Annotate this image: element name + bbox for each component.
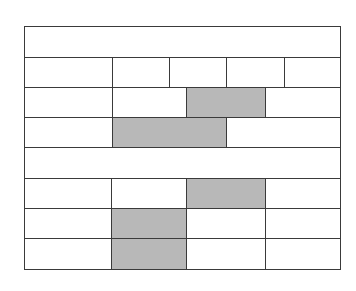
grid-cell [24, 147, 341, 179]
grid-cell [226, 57, 285, 88]
brick-grid-diagram [0, 0, 356, 291]
grid-cell [111, 178, 187, 209]
grid-cell [284, 57, 341, 88]
grid-cell [24, 238, 112, 270]
shaded-cell [111, 208, 187, 239]
grid-cell [265, 178, 341, 209]
grid-cell [24, 57, 113, 88]
shaded-cell [186, 87, 266, 118]
grid-cell [24, 208, 112, 239]
grid-cell [169, 57, 227, 88]
grid-cell [265, 208, 341, 239]
grid-cell [265, 238, 341, 270]
shaded-cell [111, 238, 187, 270]
shaded-cell [186, 178, 266, 209]
grid-cell [186, 238, 266, 270]
grid-cell [226, 117, 341, 148]
grid-cell [112, 57, 170, 88]
grid-cell [186, 208, 266, 239]
grid-cell [24, 87, 113, 118]
grid-cell [112, 87, 187, 118]
grid-cell [24, 117, 113, 148]
grid-cell [24, 26, 341, 58]
grid-cell [265, 87, 341, 118]
shaded-cell [112, 117, 227, 148]
grid-cell [24, 178, 112, 209]
